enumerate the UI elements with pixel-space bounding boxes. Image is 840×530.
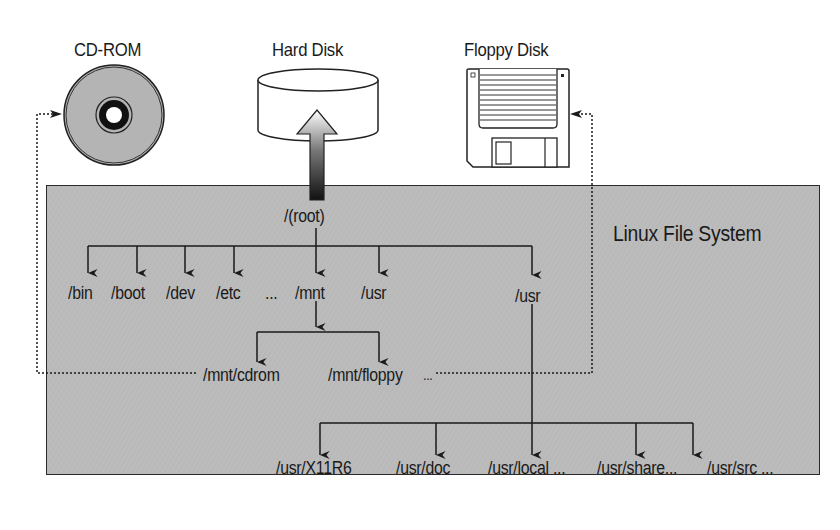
diagram-graphics bbox=[0, 0, 840, 530]
dir-boot: /boot bbox=[111, 283, 145, 303]
diagram-title: Linux File System bbox=[613, 222, 761, 246]
dir-mnt: /mnt bbox=[295, 283, 325, 303]
dir-usr-src: /usr/src ... bbox=[707, 458, 773, 478]
dir-mnt-cdrom: /mnt/cdrom bbox=[203, 365, 280, 385]
root-dir-label: /(root) bbox=[284, 206, 324, 226]
dir-mnt-floppy: /mnt/floppy bbox=[328, 365, 403, 385]
floppy-link-arrowhead-icon bbox=[570, 110, 582, 118]
dir-etc: /etc bbox=[216, 283, 240, 303]
dir-ellipsis: ... bbox=[265, 283, 277, 303]
dir-mnt-ellipsis: ... bbox=[423, 365, 432, 385]
dir-usr-doc: /usr/doc bbox=[396, 458, 450, 478]
floppy-disk-icon bbox=[467, 69, 569, 167]
dir-usr-local: /usr/local ... bbox=[488, 458, 565, 478]
dir-usr-share: /usr/share... bbox=[597, 458, 677, 478]
dir-usr-x11r6: /usr/X11R6 bbox=[276, 458, 351, 478]
dir-dev: /dev bbox=[166, 283, 195, 303]
dir-bin: /bin bbox=[68, 283, 92, 303]
dir-usr-2: /usr bbox=[515, 286, 540, 306]
dir-usr-1: /usr bbox=[361, 283, 386, 303]
cd-rom-disc-icon bbox=[64, 65, 164, 165]
